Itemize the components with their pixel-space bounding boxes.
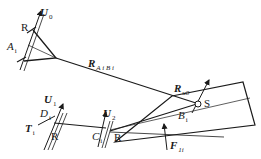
label-ru0: Ru0 <box>174 83 189 94</box>
label-ci: Ci <box>92 131 102 142</box>
diagram-lines <box>0 0 261 159</box>
label-r-aibi: RA i B i <box>88 58 114 69</box>
label-u1: U1 <box>44 94 56 105</box>
label-bi: Bi <box>178 110 188 121</box>
f1i-arrow <box>164 124 167 150</box>
label-s: S <box>204 98 210 109</box>
label-di: Di <box>40 108 51 119</box>
label-u0: U0 <box>40 7 52 18</box>
label-r-mid: R <box>114 132 121 143</box>
label-ti: Ti <box>25 123 35 134</box>
label-r-top: R <box>21 22 28 33</box>
label-u2: U2 <box>103 108 115 119</box>
u0-axis-arrow <box>20 11 41 70</box>
label-ai: Ai <box>7 41 17 52</box>
kinematic-linkage-diagram: U0 R Ai RA i B i Ru0 S Bi U1 Di Ti R U2 … <box>0 0 261 159</box>
label-r-left: R <box>51 131 58 142</box>
link-AiBi <box>56 58 199 104</box>
label-f1i: F1i <box>170 140 184 151</box>
